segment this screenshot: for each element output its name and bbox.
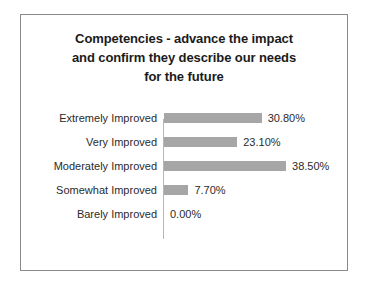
category-label: Somewhat Improved <box>21 178 157 202</box>
chart-title-line-2: and confirm they describe our needs <box>21 48 347 67</box>
chart-row: Somewhat Improved 7.70% <box>21 178 347 202</box>
category-label: Barely Improved <box>21 202 157 226</box>
bar <box>164 137 237 147</box>
chart-row: Moderately Improved 38.50% <box>21 154 347 178</box>
chart-row: Very Improved 23.10% <box>21 130 347 154</box>
bar-value-label: 0.00% <box>170 202 201 226</box>
bar-track: 7.70% <box>164 178 347 202</box>
chart-title: Competencies - advance the impact and co… <box>21 29 347 86</box>
chart-row: Barely Improved 0.00% <box>21 202 347 226</box>
bar-track: 23.10% <box>164 130 347 154</box>
bar-track: 30.80% <box>164 106 347 130</box>
category-label: Very Improved <box>21 130 157 154</box>
category-label: Moderately Improved <box>21 154 157 178</box>
plot-area: Extremely Improved 30.80% Very Improved … <box>21 106 347 236</box>
bar-track: 0.00% <box>164 202 347 226</box>
bar-value-label: 23.10% <box>243 130 280 154</box>
bar-value-label: 38.50% <box>292 154 329 178</box>
bar-value-label: 7.70% <box>194 178 225 202</box>
bar <box>164 113 262 123</box>
chart-title-line-1: Competencies - advance the impact <box>21 29 347 48</box>
chart-row: Extremely Improved 30.80% <box>21 106 347 130</box>
chart-title-line-3: for the future <box>21 67 347 86</box>
chart-frame: Competencies - advance the impact and co… <box>20 14 348 271</box>
bar-track: 38.50% <box>164 154 347 178</box>
bar <box>164 185 188 195</box>
bar-value-label: 30.80% <box>268 106 305 130</box>
bar <box>164 161 286 171</box>
category-label: Extremely Improved <box>21 106 157 130</box>
